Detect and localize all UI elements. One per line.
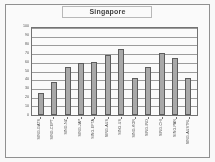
x-label-slot: SING-KOR [128,117,142,161]
x-axis-tick-label: SING-PAN [174,119,178,137]
y-axis-tick-label: 10 [25,105,29,109]
plot-area [31,27,198,116]
x-axis-tick-label: SING-KOR [133,119,137,138]
bar[interactable] [118,49,124,115]
y-axis-tick-label: 50 [25,70,29,74]
bar-slot [141,28,154,115]
bar-slot [34,28,47,115]
bar-slot [115,28,128,115]
chart-title: Singapore [0,8,215,15]
x-label-slot: SING-US [114,117,128,161]
bar[interactable] [159,53,165,115]
y-axis-tick-label: 40 [25,79,29,83]
y-axis-tick-label: 80 [25,43,29,47]
bar[interactable] [91,62,97,115]
x-axis-tick-label: SING-AUSTRL [187,119,191,144]
chart-figure: Singapore 1009080706050403020100 SING-GA… [0,0,215,162]
plot-wrapper: 1009080706050403020100 [31,27,198,116]
bar[interactable] [172,58,178,115]
y-axis-tick-label: 60 [25,61,29,65]
bar[interactable] [51,82,57,115]
bar[interactable] [38,93,44,115]
bar-slot [47,28,60,115]
bar-slot [61,28,74,115]
y-axis-tick-label: 70 [25,52,29,56]
y-axis-tick-label: 0 [27,114,29,118]
x-label-slot: SING-IND [142,117,156,161]
y-axis-tick-label: 20 [25,96,29,100]
bar[interactable] [105,55,111,115]
x-axis-tick-label: SING-JAP [79,119,83,136]
bar-slot [182,28,195,115]
x-label-slot: SING-AUSTRL [182,117,196,161]
bar-slot [88,28,101,115]
y-axis-tick-label: 90 [25,34,29,38]
x-axis-tick-label: SING-GATS [38,119,42,139]
x-axis-tick-label: SING-NZ [65,119,69,134]
bar-series [32,28,197,115]
x-label-slot: SING-EFTA [87,117,101,161]
x-label-slot: SING-CHI [155,117,169,161]
x-axis-tick-label: SING-EFTA [92,119,96,139]
x-label-slot: SING-GATS [33,117,47,161]
bar[interactable] [145,67,151,115]
x-label-slot: SING-JAP [74,117,88,161]
x-axis-tick-label: SING-US [119,119,123,135]
bar[interactable] [78,63,84,115]
bar[interactable] [132,78,138,115]
x-axis-tick-label: SING-CEPT [52,119,56,139]
x-label-slot: SING-AUS [101,117,115,161]
x-axis-tick-label: SING-CHI [160,119,164,136]
bar-slot [128,28,141,115]
bar-slot [101,28,114,115]
x-label-slot: SING-NZ [60,117,74,161]
bar[interactable] [185,78,191,115]
bar[interactable] [65,67,71,115]
bar-slot [74,28,87,115]
bar-slot [168,28,181,115]
y-axis-tick-label: 30 [25,88,29,92]
x-axis-labels: SING-GATSSING-CEPTSING-NZSING-JAPSING-EF… [31,117,198,161]
x-axis-tick-label: SING-AUS [106,119,110,137]
bar-slot [155,28,168,115]
x-label-slot: SING-CEPT [47,117,61,161]
x-axis-tick-label: SING-IND [147,119,151,136]
x-label-slot: SING-PAN [169,117,183,161]
y-axis-tick-label: 100 [23,25,29,29]
